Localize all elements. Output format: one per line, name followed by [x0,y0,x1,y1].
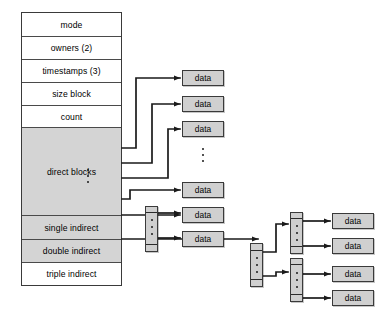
data-block-label: data [195,99,211,109]
data-block-label: data [195,210,211,220]
data-block-label: data [345,241,361,251]
data-block-label: data [195,234,211,244]
data-block: data [332,266,374,282]
data-block: data [182,121,224,137]
data-block-label: data [195,185,211,195]
data-block: data [332,290,374,306]
triple-indirect-block-upper [290,212,303,254]
data-block-label: data [195,124,211,134]
data-block-label: data [345,216,361,226]
single-indirect-block [145,206,158,252]
data-block: data [182,182,224,198]
data-blocks-ellipsis-icon [201,148,205,162]
data-block-label: data [345,269,361,279]
indirect-connector-lines [0,0,387,322]
triple-indirect-block-lower [290,258,303,302]
data-block: data [182,70,224,86]
data-block: data [182,207,224,223]
data-block: data [332,238,374,254]
data-block: data [332,213,374,229]
inode-diagram: mode owners (2) timestamps (3) size bloc… [0,0,387,322]
double-indirect-block [250,243,263,287]
data-block-label: data [195,73,211,83]
data-block-label: data [345,293,361,303]
data-block: data [182,96,224,112]
data-block: data [182,231,224,247]
